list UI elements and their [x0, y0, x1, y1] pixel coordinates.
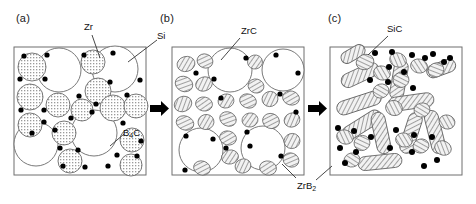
- si-label: Si: [157, 30, 165, 41]
- figure-canvas: [0, 0, 476, 204]
- sic-label: SiC: [387, 23, 402, 34]
- arrow-b-to-c: [308, 101, 327, 116]
- zr-label: Zr: [84, 21, 93, 32]
- zrb2-label-sub: 2: [312, 185, 316, 192]
- b4c-label-sub: 4: [129, 132, 133, 139]
- microstructure-evolution-figure: (a) (b) (c) Zr Si B4C ZrC SiC ZrB2: [0, 0, 476, 204]
- panel-caption-b: (b): [160, 12, 174, 24]
- zrc-label: ZrC: [241, 25, 257, 36]
- zrb2-label: ZrB2: [297, 180, 316, 191]
- panel-caption-a: (a): [16, 12, 30, 24]
- b4c-label: B4C: [123, 127, 140, 138]
- zrb2-label-text: ZrB: [297, 180, 312, 191]
- arrow-a-to-b: [150, 101, 169, 116]
- b4c-label-text-after: C: [133, 127, 140, 138]
- panel-caption-c: (c): [328, 12, 341, 24]
